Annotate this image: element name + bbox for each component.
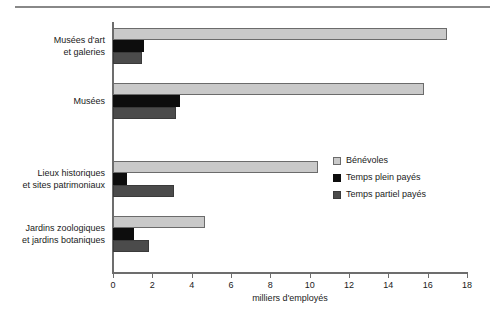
x-axis-title: milliers d'employés	[113, 293, 467, 303]
chart-container: 024681012141618 Musées d'artet galeriesM…	[0, 0, 500, 319]
x-tick	[349, 273, 350, 278]
bar	[113, 173, 127, 185]
bar	[113, 240, 149, 252]
category-label-line: Jardins zoologiques	[0, 222, 105, 234]
bar	[113, 52, 142, 64]
legend-swatch-icon	[333, 191, 341, 199]
category-label-line: et galeries	[0, 46, 105, 58]
x-axis-line	[112, 272, 468, 274]
legend-item: Bénévoles	[333, 152, 426, 169]
x-tick-label: 4	[177, 280, 207, 291]
legend-swatch-icon	[333, 157, 341, 165]
legend-item: Temps partiel payés	[333, 186, 426, 203]
x-tick-label: 16	[413, 280, 443, 291]
x-tick-label: 2	[137, 280, 167, 291]
category-label: Musées d'artet galeries	[0, 34, 105, 58]
x-tick-label: 6	[216, 280, 246, 291]
x-tick-label: 18	[452, 280, 482, 291]
header-divider	[15, 6, 490, 8]
bar	[113, 216, 205, 228]
legend-label: Bénévoles	[346, 155, 388, 166]
category-label: Jardins zoologiqueset jardins botaniques	[0, 222, 105, 246]
category-label-line: et sites patrimoniaux	[0, 179, 105, 191]
bar	[113, 83, 424, 95]
x-tick	[310, 273, 311, 278]
legend-swatch-icon	[333, 174, 341, 182]
bar	[113, 95, 180, 107]
x-tick	[152, 273, 153, 278]
chart-legend: BénévolesTemps plein payésTemps partiel …	[333, 152, 426, 203]
x-tick	[467, 273, 468, 278]
category-label-line: Lieux historiques	[0, 167, 105, 179]
legend-label: Temps plein payés	[346, 172, 421, 183]
bar	[113, 228, 134, 240]
x-tick-label: 0	[98, 280, 128, 291]
x-tick	[192, 273, 193, 278]
x-tick	[270, 273, 271, 278]
bar	[113, 107, 176, 119]
bar	[113, 28, 447, 40]
x-tick-label: 8	[255, 280, 285, 291]
category-label-line: Musées	[0, 95, 105, 107]
category-label-line: Musées d'art	[0, 34, 105, 46]
x-tick	[113, 273, 114, 278]
legend-item: Temps plein payés	[333, 169, 426, 186]
x-tick	[231, 273, 232, 278]
x-tick-label: 14	[373, 280, 403, 291]
x-tick-label: 12	[334, 280, 364, 291]
bar	[113, 161, 318, 173]
category-label-line: et jardins botaniques	[0, 234, 105, 246]
x-tick	[428, 273, 429, 278]
x-tick-label: 10	[295, 280, 325, 291]
category-label: Lieux historiqueset sites patrimoniaux	[0, 167, 105, 191]
bar	[113, 185, 174, 197]
bar	[113, 40, 144, 52]
legend-label: Temps partiel payés	[346, 189, 426, 200]
category-label: Musées	[0, 95, 105, 107]
x-tick	[388, 273, 389, 278]
